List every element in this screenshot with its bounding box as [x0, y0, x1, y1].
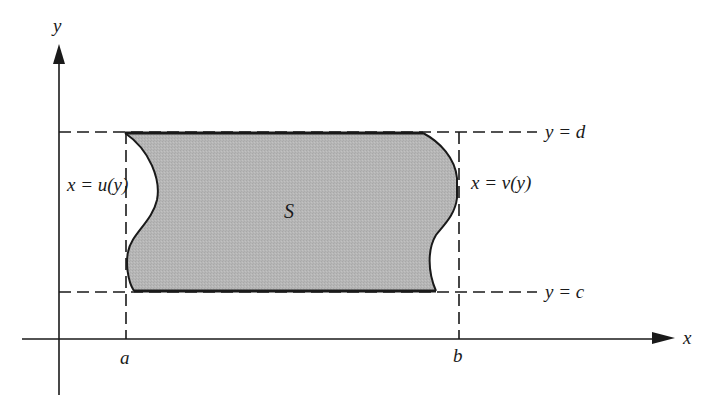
tick-label-a: a [120, 347, 130, 368]
y-axis-arrow-icon [53, 44, 65, 64]
top-line-label: y = d [543, 121, 586, 142]
right-boundary-label: x = v(y) [470, 172, 531, 194]
y-axis-label: y [51, 15, 62, 36]
bottom-line-label: y = c [543, 281, 585, 302]
x-axis-arrow-icon [652, 332, 675, 344]
left-boundary-label: x = u(y) [66, 174, 128, 196]
x-axis-label: x [682, 327, 692, 348]
region-label: S [284, 200, 294, 222]
region-diagram: y x a b y = d y = c x = u(y) x = v(y) S [0, 0, 708, 409]
tick-label-b: b [453, 345, 463, 366]
